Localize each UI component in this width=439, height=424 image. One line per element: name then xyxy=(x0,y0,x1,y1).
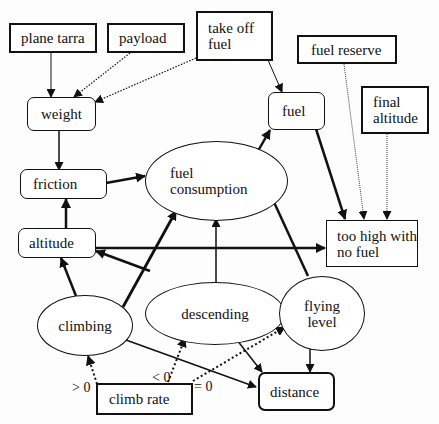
node-fuel-consumption: fuel consumption xyxy=(145,141,288,221)
node-label: altitude xyxy=(29,235,74,251)
node-plane-tarra: plane tarra xyxy=(9,23,97,53)
influence-diagram: plane tarra payload take off fuel fuel r… xyxy=(0,0,439,424)
node-too-high-with-no-fuel: too high with no fuel xyxy=(326,220,418,267)
edge-friction-fuelconsumption xyxy=(106,176,145,183)
node-take-off-fuel: take off fuel xyxy=(196,11,273,61)
node-friction: friction xyxy=(20,169,107,199)
node-fuel: fuel xyxy=(268,92,325,130)
node-final-altitude: final altitude xyxy=(361,86,429,134)
node-label: fuel consumption xyxy=(170,165,248,197)
edge-fuelconsumption-fuel xyxy=(258,130,270,151)
edge-label-less-than-zero: < 0 xyxy=(152,370,170,386)
node-label: too high with no fuel xyxy=(337,228,417,260)
edge-fuel-toohigh xyxy=(316,129,345,219)
edge-climbing-altitude xyxy=(61,258,76,296)
node-label: climbing xyxy=(58,318,111,334)
node-label: friction xyxy=(33,176,77,192)
node-label: weight xyxy=(41,106,82,122)
node-distance: distance xyxy=(258,372,335,411)
node-payload: payload xyxy=(107,23,185,53)
edge-label-greater-than-zero: > 0 xyxy=(72,380,90,396)
edge-takeofffuel-fuel xyxy=(268,60,282,92)
node-label: distance xyxy=(270,384,319,400)
node-label: descending xyxy=(181,306,248,322)
node-weight: weight xyxy=(27,97,96,131)
edge-takeofffuel-weight xyxy=(95,58,196,102)
node-climb-rate: climb rate xyxy=(96,383,193,415)
node-label: plane tarra xyxy=(21,30,85,46)
node-descending: descending xyxy=(145,282,285,345)
edge-climbing-distance xyxy=(126,340,256,387)
edge-label-equals-zero: = 0 xyxy=(194,379,212,395)
edge-descending-altitude xyxy=(96,251,150,271)
node-label: fuel reserve xyxy=(311,42,381,58)
node-fuel-reserve: fuel reserve xyxy=(297,35,397,64)
node-label: fuel xyxy=(282,103,305,119)
node-label: climb rate xyxy=(109,391,169,407)
node-climbing: climbing xyxy=(37,295,133,356)
node-flying-level: flying level xyxy=(279,276,365,351)
node-altitude: altitude xyxy=(18,228,96,258)
node-label: take off fuel xyxy=(208,20,254,52)
node-label: flying level xyxy=(304,298,340,330)
node-label: final altitude xyxy=(373,94,418,126)
node-label: payload xyxy=(119,30,166,46)
